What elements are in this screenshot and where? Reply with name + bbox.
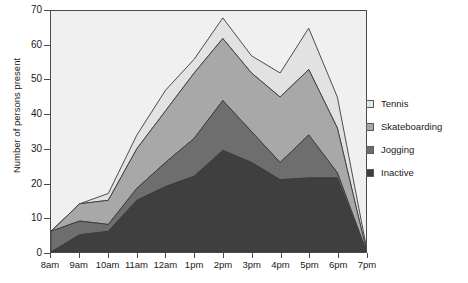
legend-swatch-icon — [366, 169, 374, 177]
y-axis-tick-label: 60 — [0, 40, 42, 50]
legend-item-label: Tennis — [381, 98, 408, 109]
stacked-area-series — [51, 11, 366, 252]
plot-area — [50, 10, 367, 253]
legend-swatch-icon — [366, 123, 374, 131]
x-axis-tick — [338, 253, 339, 258]
x-axis-tick — [137, 253, 138, 258]
y-axis-tick-label: 0 — [0, 248, 42, 258]
y-axis-tick-label: 40 — [0, 109, 42, 119]
y-axis-tick-label: 70 — [0, 5, 42, 15]
legend-swatch-icon — [366, 146, 374, 154]
legend-item-skateboarding[interactable]: Skateboarding — [366, 115, 442, 138]
x-axis-tick — [252, 253, 253, 258]
y-axis-tick-label: 10 — [0, 213, 42, 223]
x-axis-tick — [367, 253, 368, 258]
chart-legend: TennisSkateboardingJoggingInactive — [366, 92, 442, 184]
x-axis-tick — [281, 253, 282, 258]
x-axis-tick-label: 7pm — [347, 259, 387, 270]
x-axis-tick — [50, 253, 51, 258]
x-axis-tick — [79, 253, 80, 258]
area-chart-figure: Number of persons present 01020304050607… — [0, 0, 468, 283]
legend-item-jogging[interactable]: Jogging — [366, 138, 442, 161]
x-axis-tick — [194, 253, 195, 258]
legend-item-label: Jogging — [381, 144, 414, 155]
legend-item-label: Skateboarding — [381, 121, 442, 132]
y-axis-tick-label: 20 — [0, 179, 42, 189]
legend-item-label: Inactive — [381, 167, 414, 178]
x-axis-tick — [309, 253, 310, 258]
y-axis-tick-label: 50 — [0, 74, 42, 84]
legend-item-inactive[interactable]: Inactive — [366, 161, 442, 184]
y-axis-tick-label: 30 — [0, 144, 42, 154]
x-axis-tick — [108, 253, 109, 258]
x-axis-tick — [223, 253, 224, 258]
x-axis-tick — [165, 253, 166, 258]
legend-item-tennis[interactable]: Tennis — [366, 92, 442, 115]
legend-swatch-icon — [366, 100, 374, 108]
